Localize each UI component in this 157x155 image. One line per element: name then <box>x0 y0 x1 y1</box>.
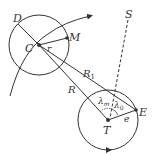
point-t <box>106 118 110 122</box>
orbital-geometry-diagram: D C M r S R1 R λm λ0 E e T <box>0 0 157 155</box>
point-e <box>134 108 138 112</box>
label-r1: R1 <box>82 68 95 81</box>
label-e-point: E <box>138 106 147 119</box>
line-e <box>108 110 136 120</box>
label-big-r: R <box>67 84 76 95</box>
lower-circle-arrow-icon <box>106 147 112 153</box>
arc-lambda-m <box>100 108 112 112</box>
label-d: D <box>12 12 22 25</box>
line-r <box>39 45 108 120</box>
label-lambda-m: λm <box>97 96 110 107</box>
label-r: r <box>47 44 52 54</box>
radius-r <box>39 38 67 45</box>
label-m: M <box>68 31 81 44</box>
label-s: S <box>125 8 133 21</box>
label-e-distance: e <box>124 114 129 124</box>
label-t: T <box>103 124 112 137</box>
label-c: C <box>25 42 34 55</box>
point-c <box>37 43 41 47</box>
label-lambda-0: λ0 <box>113 100 124 111</box>
